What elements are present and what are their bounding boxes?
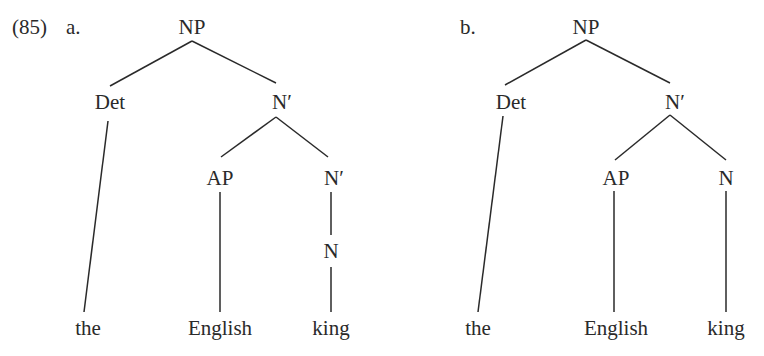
node-ap: AP <box>207 166 234 190</box>
tree-a-label: a. <box>66 15 81 39</box>
example-number: (85) <box>12 15 47 39</box>
edge-det-the <box>84 121 108 312</box>
tree-b: b. NP Det N′ AP N the English king <box>460 15 745 340</box>
leaf-the: the <box>75 316 101 340</box>
edge-np-nbar <box>192 41 276 83</box>
node-np: NP <box>573 15 600 39</box>
node-nbar: N′ <box>665 90 685 114</box>
node-nbar-lower: N′ <box>324 166 344 190</box>
syntax-tree-diagram: (85) a. NP Det N′ AP N′ N the English ki… <box>0 0 764 356</box>
edge-nbar-ap <box>615 115 670 160</box>
node-n: N <box>718 166 733 190</box>
leaf-english: English <box>188 316 253 340</box>
node-np: NP <box>179 15 206 39</box>
node-n: N <box>323 239 338 263</box>
edge-np-nbar <box>586 40 670 83</box>
edge-np-det <box>110 41 192 86</box>
leaf-english: English <box>584 316 649 340</box>
edge-nbar-n <box>670 115 726 160</box>
leaf-king: king <box>312 316 350 340</box>
edge-nbar-ap <box>221 117 276 157</box>
node-det: Det <box>496 90 526 114</box>
leaf-king: king <box>707 316 745 340</box>
tree-a: a. NP Det N′ AP N′ N the English king <box>66 15 350 340</box>
node-det: Det <box>95 90 125 114</box>
node-ap: AP <box>603 166 630 190</box>
edge-det-the <box>478 116 503 312</box>
leaf-the: the <box>465 316 491 340</box>
edge-nbar-nbar <box>276 117 328 157</box>
tree-b-label: b. <box>460 15 476 39</box>
node-nbar: N′ <box>272 90 292 114</box>
edge-np-det <box>505 40 586 85</box>
